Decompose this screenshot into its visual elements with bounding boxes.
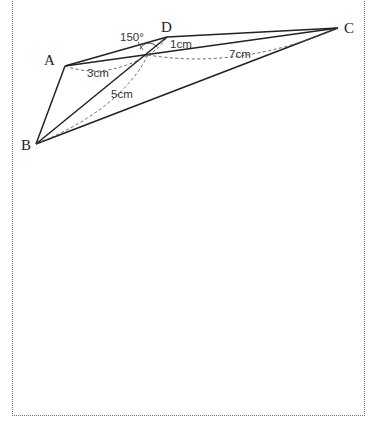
label-7cm: 7cm [229,48,251,60]
edge-ad [65,37,167,66]
label-d: D [161,19,172,35]
label-c: C [344,20,354,36]
edge-dc [167,28,338,37]
geometry-figure: A B C D 150° 1cm 3cm 5cm 7cm [0,0,384,423]
label-angle: 150° [120,31,144,43]
label-b: B [21,137,31,153]
edge-ac [65,28,338,66]
label-a: A [44,52,55,68]
label-3cm: 3cm [87,67,109,79]
label-5cm: 5cm [111,88,133,100]
label-1cm: 1cm [170,38,192,50]
